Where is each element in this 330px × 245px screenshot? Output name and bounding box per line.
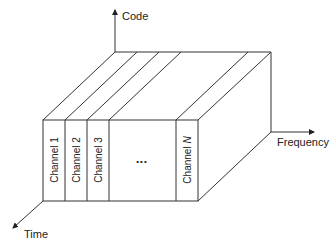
time-axis-label: Time [24,228,48,240]
top-diagonal [65,52,137,120]
channel-n-label: Channel N [182,136,193,184]
frequency-axis-label: Frequency [277,136,329,148]
top-diagonal [43,52,115,120]
top-diagonal [87,52,159,120]
bottom-right-diagonal [198,132,271,201]
channel-label: Channel 2 [71,137,82,183]
top-diagonal [198,52,271,120]
top-diagonal [109,52,181,120]
front-face [43,120,198,201]
top-diagonal [176,52,248,120]
fdma-diagram: Code Frequency Time Channel 1 Channel 2 … [0,0,330,245]
code-axis-label: Code [122,10,148,22]
channel-label: Channel 3 [93,137,104,183]
time-axis [13,201,43,228]
channel-label: Channel 1 [49,137,60,183]
ellipsis: ••• [136,157,147,166]
